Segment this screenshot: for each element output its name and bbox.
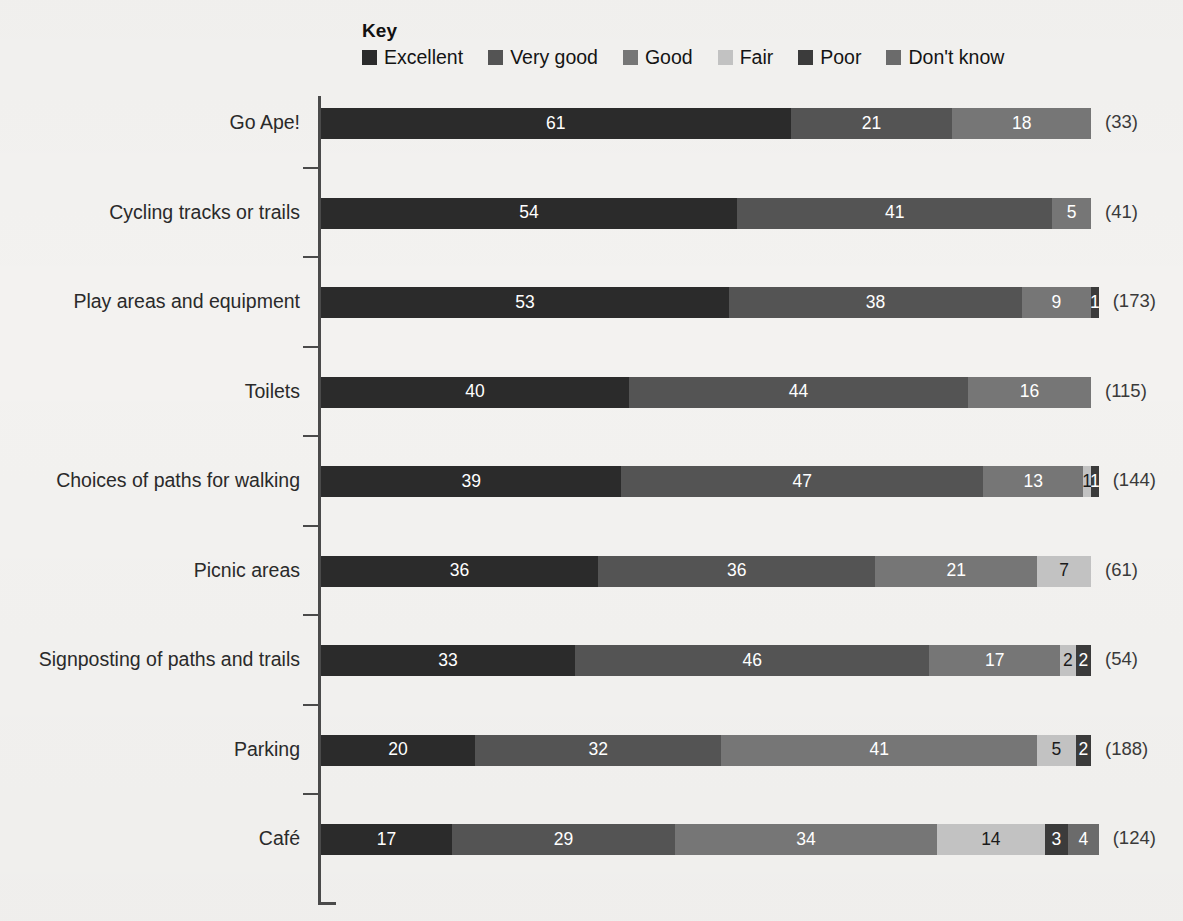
stacked-bar: 33461722 xyxy=(321,645,1091,676)
legend-item-label: Fair xyxy=(740,48,774,68)
bar-segment: 2 xyxy=(1076,735,1091,766)
row-category-label: Picnic areas xyxy=(0,550,300,590)
legend-item: Don't know xyxy=(886,48,1004,68)
row-base-count: (124) xyxy=(1113,818,1156,858)
legend-item: Excellent xyxy=(362,48,463,68)
bar-segment-value: 13 xyxy=(1024,473,1043,491)
row-category-label: Go Ape! xyxy=(0,102,300,142)
bar-segment-value: 36 xyxy=(450,562,469,580)
row-base-count: (115) xyxy=(1105,371,1147,411)
bar-segment-value: 44 xyxy=(789,383,808,401)
bar-segment: 3 xyxy=(1045,824,1068,855)
chart-row: Picnic areas3636217(61) xyxy=(0,550,1183,590)
stacked-bar: 533891 xyxy=(321,287,1099,318)
y-axis-tick xyxy=(303,167,319,169)
bar-segment: 29 xyxy=(452,824,675,855)
bar-segment-value: 47 xyxy=(793,473,812,491)
bar-segment-value: 9 xyxy=(1051,294,1061,312)
y-axis-tick xyxy=(303,346,319,348)
legend-item: Fair xyxy=(718,48,774,68)
bar-segment: 14 xyxy=(937,824,1045,855)
bar-segment-value: 5 xyxy=(1067,204,1077,222)
legend-item-label: Don't know xyxy=(908,48,1004,68)
bar-segment: 46 xyxy=(575,645,929,676)
bar-segment-value: 40 xyxy=(465,383,484,401)
row-category-label: Play areas and equipment xyxy=(0,281,300,321)
legend-item: Poor xyxy=(798,48,861,68)
y-axis-tick xyxy=(303,793,319,795)
stacked-bar: 54415 xyxy=(321,198,1091,229)
bar-segment-value: 14 xyxy=(981,831,1000,849)
stacked-bar: 1729341434 xyxy=(321,824,1099,855)
bar-segment: 13 xyxy=(983,466,1083,497)
legend-item-label: Good xyxy=(645,48,693,68)
row-base-count: (41) xyxy=(1105,192,1138,232)
bar-segment: 32 xyxy=(475,735,721,766)
chart-row: Go Ape!612118(33) xyxy=(0,102,1183,142)
row-category-label: Signposting of paths and trails xyxy=(0,639,300,679)
bar-segment: 41 xyxy=(721,735,1037,766)
bar-segment: 44 xyxy=(629,377,968,408)
bar-segment: 18 xyxy=(952,108,1091,139)
legend-swatch-icon xyxy=(718,50,733,65)
legend-item: Very good xyxy=(488,48,598,68)
stacked-bar-chart: Go Ape!612118(33)Cycling tracks or trail… xyxy=(0,96,1183,908)
stacked-bar: 3636217 xyxy=(321,556,1091,587)
legend-swatch-icon xyxy=(886,50,901,65)
chart-row: Choices of paths for walking39471311(144… xyxy=(0,460,1183,500)
y-axis-tick xyxy=(303,256,319,258)
bar-segment: 39 xyxy=(321,466,621,497)
bar-segment-value: 38 xyxy=(866,294,885,312)
bar-segment-value: 2 xyxy=(1078,652,1088,670)
legend-item-label: Excellent xyxy=(384,48,463,68)
bar-segment-value: 1 xyxy=(1083,473,1091,491)
bar-segment: 4 xyxy=(1068,824,1099,855)
bar-segment: 7 xyxy=(1037,556,1091,587)
bar-segment-value: 21 xyxy=(862,115,881,133)
bar-segment-value: 29 xyxy=(554,831,573,849)
bar-segment-value: 34 xyxy=(796,831,815,849)
bar-segment: 2 xyxy=(1060,645,1075,676)
y-axis-tick xyxy=(303,525,319,527)
chart-row: Toilets404416(115) xyxy=(0,371,1183,411)
bar-segment-value: 16 xyxy=(1020,383,1039,401)
bar-segment-value: 17 xyxy=(377,831,396,849)
bar-segment-value: 54 xyxy=(519,204,538,222)
legend-swatch-icon xyxy=(623,50,638,65)
row-base-count: (61) xyxy=(1105,550,1138,590)
bar-segment: 47 xyxy=(621,466,983,497)
bar-segment: 34 xyxy=(675,824,937,855)
legend-swatch-icon xyxy=(488,50,503,65)
bar-segment-value: 1 xyxy=(1091,294,1099,312)
bar-segment-value: 53 xyxy=(515,294,534,312)
legend-swatch-icon xyxy=(362,50,377,65)
row-category-label: Choices of paths for walking xyxy=(0,460,300,500)
bar-segment: 1 xyxy=(1083,466,1091,497)
bar-segment: 41 xyxy=(737,198,1053,229)
chart-row: Play areas and equipment533891(173) xyxy=(0,281,1183,321)
y-axis-tick xyxy=(303,614,319,616)
row-category-label: Toilets xyxy=(0,371,300,411)
bar-segment-value: 4 xyxy=(1078,831,1088,849)
bar-segment: 53 xyxy=(321,287,729,318)
bar-segment: 16 xyxy=(968,377,1091,408)
row-base-count: (144) xyxy=(1113,460,1156,500)
bar-segment: 36 xyxy=(598,556,875,587)
bar-segment-value: 1 xyxy=(1091,473,1099,491)
bar-segment-value: 7 xyxy=(1059,562,1069,580)
row-category-label: Café xyxy=(0,818,300,858)
legend-item-label: Very good xyxy=(510,48,598,68)
bar-segment: 33 xyxy=(321,645,575,676)
bar-segment: 21 xyxy=(791,108,953,139)
chart-row: Cycling tracks or trails54415(41) xyxy=(0,192,1183,232)
bar-segment-value: 3 xyxy=(1051,831,1061,849)
row-base-count: (173) xyxy=(1113,281,1156,321)
bar-segment-value: 61 xyxy=(546,115,565,133)
bar-segment: 38 xyxy=(729,287,1022,318)
row-category-label: Cycling tracks or trails xyxy=(0,192,300,232)
bar-segment-value: 46 xyxy=(742,652,761,670)
bar-segment-value: 39 xyxy=(461,473,480,491)
bar-segment-value: 41 xyxy=(870,741,889,759)
bar-segment-value: 41 xyxy=(885,204,904,222)
bar-segment-value: 20 xyxy=(388,741,407,759)
